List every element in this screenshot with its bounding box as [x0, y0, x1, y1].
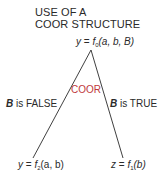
- right-branch-condition: B is TRUE: [110, 98, 157, 109]
- left-branch-condition: B is FALSE: [6, 98, 57, 109]
- right-leaf-node: z = f1(b): [111, 159, 146, 170]
- left-leaf-node: y = f2(a, b): [18, 159, 64, 170]
- coor-operator-label: COOR: [71, 84, 101, 95]
- root-node: y = f0(a, b, B): [76, 36, 134, 47]
